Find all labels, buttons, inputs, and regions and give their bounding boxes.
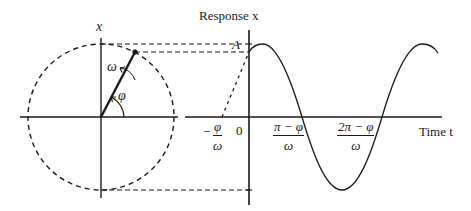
response-axis-title: Response x: [199, 9, 259, 22]
origin-label: 0: [236, 124, 243, 137]
first-zero-tick-label: π − φ ω: [273, 120, 304, 152]
phase-offset-dotted-line: [222, 52, 249, 117]
second-zero-num: 2π − φ: [337, 120, 374, 136]
phi-label: φ: [118, 89, 126, 103]
response-axis-title-text: Response x: [199, 8, 259, 23]
omega-label: ω: [107, 60, 117, 74]
first-zero-den: ω: [284, 136, 293, 152]
response-axes: [185, 30, 442, 205]
neg-phase-tick-label: φ ω: [213, 120, 222, 152]
first-zero-num: π − φ: [273, 120, 304, 136]
neg-phase-num: φ: [213, 120, 222, 136]
amplitude-label: A: [232, 38, 240, 51]
diagram-canvas: [0, 0, 471, 211]
second-zero-den: ω: [351, 136, 360, 152]
phasor-y-axis-label: x: [96, 20, 102, 34]
second-zero-tick-label: 2π − φ ω: [337, 120, 374, 152]
neg-sign: −: [203, 125, 210, 138]
neg-phase-den: ω: [213, 136, 222, 152]
phasor-panel: [20, 38, 178, 198]
time-axis-label: Time t: [419, 125, 453, 138]
